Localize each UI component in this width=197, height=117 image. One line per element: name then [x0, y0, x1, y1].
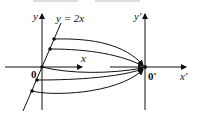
- mapping-curve: [50, 49, 143, 66]
- point: [52, 37, 56, 41]
- left-origin-label: 0: [31, 68, 37, 80]
- left-x-label: x: [80, 52, 86, 64]
- left-y-label: y: [32, 10, 38, 22]
- point: [48, 47, 52, 51]
- right-origin-label: 0': [148, 70, 157, 82]
- mapping-curves: [32, 39, 143, 93]
- mapping-curve: [42, 67, 143, 72]
- right-x-label: x': [179, 70, 188, 82]
- point: [40, 65, 44, 69]
- point: [35, 78, 39, 82]
- cut-off-caption: [33, 0, 140, 2]
- left-coordinate-frame: y x 0 y = 2x: [5, 10, 86, 111]
- point: [30, 89, 34, 93]
- right-y-label: y': [133, 10, 142, 22]
- points-on-line: [30, 37, 147, 93]
- line-label: y = 2x: [55, 12, 84, 24]
- transformation-diagram: y x 0 y = 2x y' x' 0': [0, 0, 197, 117]
- right-coordinate-frame: y' x' 0': [110, 10, 188, 110]
- image-origin-point: [143, 65, 147, 69]
